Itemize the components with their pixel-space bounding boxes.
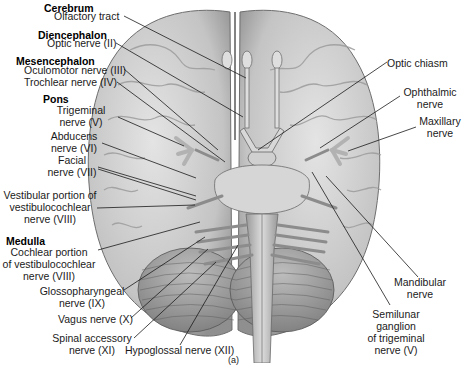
label-olfactory-tract: Olfactory tract	[54, 10, 119, 22]
panel-label: (a)	[228, 354, 239, 366]
label-trochlear-nerve: Trochlear nerve (IV)	[24, 76, 117, 88]
label-semilunar-ganglion: Semilunar ganglion of trigeminal nerve (…	[364, 308, 428, 356]
label-optic-chiasm: Optic chiasm	[387, 57, 448, 69]
label-mandibular-nerve: Mandibular nerve	[390, 276, 450, 300]
label-hypoglossal-nerve: Hypoglossal nerve (XII)	[125, 344, 234, 356]
label-vagus-nerve: Vagus nerve (X)	[58, 313, 133, 325]
label-cochlear-portion: Cochlear portion of vestibulocochlear ne…	[0, 246, 98, 282]
label-ophthalmic-nerve: Ophthalmic nerve	[400, 86, 460, 110]
label-glossopharyngeal-nerve: Glossopharyngeal nerve (IX)	[36, 285, 128, 309]
label-maxillary-nerve: Maxillary nerve	[415, 115, 465, 139]
label-trigeminal-nerve: Trigeminal nerve (V)	[55, 104, 107, 128]
label-oculomotor-nerve: Oculomotor nerve (III)	[24, 64, 126, 76]
label-optic-nerve: Optic nerve (II)	[47, 37, 116, 49]
label-vestibular-portion: Vestibular portion of vestibulocochlear …	[0, 189, 100, 225]
label-spinal-accessory-nerve: Spinal accessory nerve (XI)	[50, 332, 134, 356]
label-abducens-nerve: Abducens nerve (VI)	[48, 130, 100, 154]
label-facial-nerve: Facial nerve (VII)	[46, 154, 98, 178]
